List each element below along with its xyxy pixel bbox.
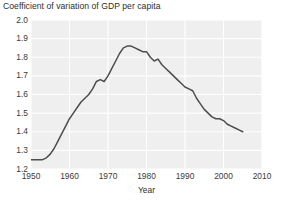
x-axis-title: Year: [31, 186, 262, 195]
plot-svg: [31, 20, 262, 169]
grid-lines: [31, 20, 262, 169]
x-axis-tick-label: 1990: [165, 172, 205, 181]
x-axis-tick-label: 1980: [127, 172, 167, 181]
plot-area: [31, 20, 262, 169]
y-axis-tick-label: 1.3: [2, 146, 28, 155]
y-axis-tick-label: 1.6: [2, 90, 28, 99]
y-axis-tick-label: 1.9: [2, 34, 28, 43]
x-axis-tick-label: 1970: [88, 172, 128, 181]
y-axis-tick-label: 1.7: [2, 71, 28, 80]
x-axis-tick-label: 1960: [50, 172, 90, 181]
data-series-group: [31, 46, 243, 160]
data-line: [31, 46, 243, 160]
x-axis-tick-label: 1950: [11, 172, 51, 181]
y-axis-tick-label: 2.0: [2, 16, 28, 25]
y-axis-tick-label: 1.5: [2, 109, 28, 118]
x-axis-tick-label: 2010: [242, 172, 281, 181]
y-axis-tick-label: 1.8: [2, 53, 28, 62]
y-axis-tick-label: 1.4: [2, 127, 28, 136]
x-axis-tick-label: 2000: [204, 172, 244, 181]
chart-container: Coefficient of variation of GDP per capi…: [0, 0, 281, 201]
